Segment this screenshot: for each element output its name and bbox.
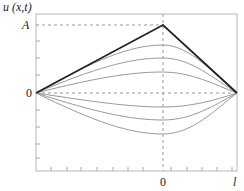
snapshot-curve-2 bbox=[36, 58, 237, 93]
x-label-zero: 0 bbox=[160, 175, 166, 189]
x-axis-ticks bbox=[51, 167, 232, 171]
y-axis-label: u (x,t) bbox=[3, 0, 32, 14]
snapshot-curve-4 bbox=[36, 93, 237, 107]
snapshot-curves bbox=[36, 45, 237, 134]
y-axis-ticks bbox=[36, 41, 40, 158]
snapshot-curve-3 bbox=[36, 72, 237, 93]
x-label-length: l bbox=[233, 175, 237, 189]
snapshot-curve-6 bbox=[36, 93, 237, 134]
plucked-string-diagram: u (x,t) A 0 0 l bbox=[0, 0, 244, 191]
y-label-amplitude: A bbox=[21, 18, 30, 32]
initial-displacement-triangle bbox=[36, 25, 237, 93]
y-label-zero: 0 bbox=[26, 86, 32, 100]
